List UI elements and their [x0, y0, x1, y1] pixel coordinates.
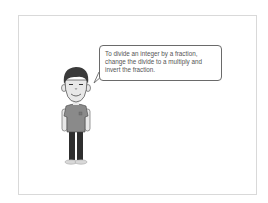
character-boy-illustration — [58, 64, 94, 168]
lesson-card — [18, 15, 257, 195]
speech-bubble: To divide an integer by a fraction, chan… — [99, 45, 222, 81]
speech-bubble-text: To divide an integer by a fraction, chan… — [105, 50, 202, 73]
